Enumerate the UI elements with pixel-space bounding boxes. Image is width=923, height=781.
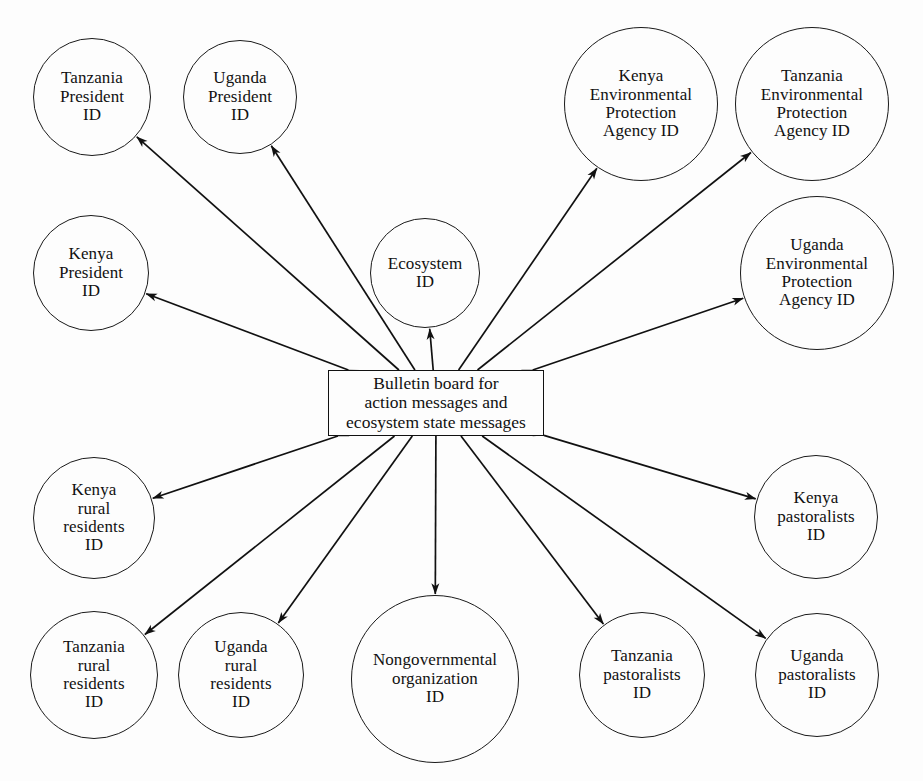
node-ecosystem[interactable]: Ecosystem ID bbox=[370, 218, 480, 328]
edge-bulletin-board-to-tanzania-epa bbox=[478, 153, 751, 371]
node-tanzania-pastoralists[interactable]: Tanzania pastoralists ID bbox=[579, 612, 705, 738]
node-label-uganda-pastoralists: Uganda pastoralists ID bbox=[778, 647, 856, 702]
node-label-kenya-epa: Kenya Environmental Protection Agency ID bbox=[590, 67, 692, 140]
edge-bulletin-board-to-tanzania-president bbox=[137, 137, 399, 370]
node-label-kenya-pastoralists: Kenya pastoralists ID bbox=[777, 489, 855, 544]
node-uganda-epa[interactable]: Uganda Environmental Protection Agency I… bbox=[740, 196, 894, 350]
edge-bulletin-board-to-uganda-epa bbox=[533, 298, 744, 370]
node-label-tanzania-president: Tanzania President ID bbox=[60, 69, 124, 124]
edge-bulletin-board-to-kenya-pastoralists bbox=[544, 435, 756, 499]
node-label-kenya-rural: Kenya rural residents ID bbox=[63, 481, 124, 554]
node-tanzania-epa[interactable]: Tanzania Environmental Protection Agency… bbox=[735, 27, 889, 181]
node-kenya-president[interactable]: Kenya President ID bbox=[33, 215, 149, 331]
node-uganda-president[interactable]: Uganda President ID bbox=[183, 40, 297, 154]
node-tanzania-rural[interactable]: Tanzania rural residents ID bbox=[30, 611, 158, 739]
diagram-canvas: Tanzania President IDUganda President ID… bbox=[0, 0, 923, 781]
node-kenya-epa[interactable]: Kenya Environmental Protection Agency ID bbox=[564, 27, 718, 181]
node-label-tanzania-epa: Tanzania Environmental Protection Agency… bbox=[761, 67, 863, 140]
edge-bulletin-board-to-kenya-rural bbox=[153, 436, 338, 498]
edge-bulletin-board-to-kenya-president bbox=[146, 294, 348, 370]
node-label-uganda-president: Uganda President ID bbox=[208, 69, 272, 124]
node-kenya-pastoralists[interactable]: Kenya pastoralists ID bbox=[754, 455, 878, 579]
node-ngo[interactable]: Nongovernmental organization ID bbox=[351, 595, 519, 763]
node-label-ecosystem: Ecosystem ID bbox=[388, 255, 463, 292]
node-label-uganda-epa: Uganda Environmental Protection Agency I… bbox=[766, 236, 868, 309]
bulletin-board-label: Bulletin board for action messages and e… bbox=[346, 374, 526, 433]
node-tanzania-president[interactable]: Tanzania President ID bbox=[33, 38, 151, 156]
node-uganda-pastoralists[interactable]: Uganda pastoralists ID bbox=[755, 613, 879, 737]
edge-bulletin-board-to-tanzania-pastoralists bbox=[461, 436, 603, 624]
node-label-kenya-president: Kenya President ID bbox=[59, 245, 123, 300]
edge-bulletin-board-to-uganda-rural bbox=[278, 436, 412, 623]
bulletin-board-node[interactable]: Bulletin board for action messages and e… bbox=[328, 370, 544, 436]
edge-bulletin-board-to-ngo bbox=[435, 436, 436, 594]
edge-bulletin-board-to-ecosystem bbox=[430, 329, 434, 370]
node-kenya-rural[interactable]: Kenya rural residents ID bbox=[33, 457, 155, 579]
node-label-tanzania-pastoralists: Tanzania pastoralists ID bbox=[603, 647, 681, 702]
edge-bulletin-board-to-tanzania-rural bbox=[145, 436, 395, 635]
edge-bulletin-board-to-uganda-pastoralists bbox=[482, 436, 766, 638]
node-label-tanzania-rural: Tanzania rural residents ID bbox=[63, 638, 125, 711]
node-label-ngo: Nongovernmental organization ID bbox=[373, 651, 497, 706]
node-uganda-rural[interactable]: Uganda rural residents ID bbox=[178, 612, 304, 738]
node-label-uganda-rural: Uganda rural residents ID bbox=[210, 638, 271, 711]
